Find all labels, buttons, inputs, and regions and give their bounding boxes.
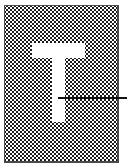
plate-label	[0, 0, 1, 1]
callout-leader-line	[58, 97, 127, 99]
callout-label	[0, 0, 1, 1]
figure-caption	[0, 0, 1, 1]
figure-canvas	[0, 0, 127, 168]
glyph-label	[0, 0, 1, 1]
halftone-plate	[4, 5, 119, 163]
